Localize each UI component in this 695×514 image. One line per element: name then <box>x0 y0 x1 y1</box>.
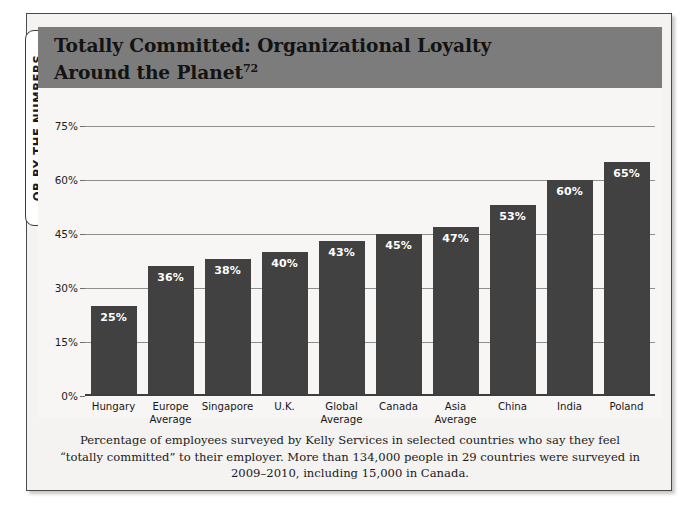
bar[interactable]: 40% <box>262 252 308 396</box>
title-band: Totally Committed: Organizational Loyalt… <box>38 27 662 88</box>
x-axis-category-label: Canada <box>370 400 427 426</box>
bar-value-label: 25% <box>100 311 126 324</box>
bar-value-label: 38% <box>214 264 240 277</box>
page-background: OB BY THE NUMBERS Totally Committed: Org… <box>0 0 695 514</box>
bar-slot: 38% <box>199 126 256 396</box>
x-axis-category-label: Singapore <box>199 400 256 426</box>
chart-area: 0%15%30%45%60%75% 25%36%38%40%43%45%47%5… <box>38 88 662 418</box>
bar-slot: 45% <box>370 126 427 396</box>
y-axis-tick-label: 15% <box>55 336 78 348</box>
plot-region: 0%15%30%45%60%75% 25%36%38%40%43%45%47%5… <box>85 126 655 396</box>
bar-slot: 65% <box>598 126 655 396</box>
bar-value-label: 36% <box>157 271 183 284</box>
bar-value-label: 65% <box>613 167 639 180</box>
bar-value-label: 43% <box>328 246 354 259</box>
bar[interactable]: 60% <box>547 180 593 396</box>
x-axis-category-label: AsiaAverage <box>427 400 484 426</box>
bar-value-label: 47% <box>442 232 468 245</box>
title-line-1: Totally Committed: Organizational Loyalt… <box>54 35 491 56</box>
bar-value-label: 40% <box>271 257 297 270</box>
bar-series: 25%36%38%40%43%45%47%53%60%65% <box>85 126 655 396</box>
y-axis-tick-label: 60% <box>55 174 78 186</box>
bar[interactable]: 47% <box>433 227 479 396</box>
bar[interactable]: 43% <box>319 241 365 396</box>
bar[interactable]: 38% <box>205 259 251 396</box>
bar-slot: 47% <box>427 126 484 396</box>
title-footnote-marker: 72 <box>243 62 258 75</box>
y-axis-tick-label: 30% <box>55 282 78 294</box>
y-axis-tick-mark <box>80 396 85 397</box>
bar-slot: 53% <box>484 126 541 396</box>
caption-line-1: Percentage of employees surveyed by Kell… <box>80 433 620 447</box>
x-axis-category-label: China <box>484 400 541 426</box>
bar-slot: 60% <box>541 126 598 396</box>
figure-caption: Percentage of employees surveyed by Kell… <box>57 432 643 482</box>
x-axis-category-label: Hungary <box>85 400 142 426</box>
bar[interactable]: 25% <box>91 306 137 396</box>
bar-value-label: 45% <box>385 239 411 252</box>
x-axis-category-label: U.K. <box>256 400 313 426</box>
x-axis-baseline <box>85 394 655 396</box>
bar[interactable]: 65% <box>604 162 650 396</box>
bar-slot: 36% <box>142 126 199 396</box>
x-axis-category-labels: HungaryEuropeAverageSingaporeU.K.GlobalA… <box>85 400 655 426</box>
bar[interactable]: 36% <box>148 266 194 396</box>
figure-panel: OB BY THE NUMBERS Totally Committed: Org… <box>26 13 672 491</box>
x-axis-category-label: Poland <box>598 400 655 426</box>
x-axis-category-label: India <box>541 400 598 426</box>
bar-slot: 40% <box>256 126 313 396</box>
x-axis-category-label: GlobalAverage <box>313 400 370 426</box>
y-axis-tick-label: 0% <box>61 390 78 402</box>
x-axis-category-label: EuropeAverage <box>142 400 199 426</box>
caption-line-2: “totally committed” to their employer. M… <box>60 450 625 464</box>
bar-slot: 43% <box>313 126 370 396</box>
bar-slot: 25% <box>85 126 142 396</box>
bar-value-label: 53% <box>499 210 525 223</box>
y-axis-tick-label: 45% <box>55 228 78 240</box>
title-line-2: Around the Planet <box>54 62 243 83</box>
y-axis-tick-label: 75% <box>55 120 78 132</box>
bar[interactable]: 45% <box>376 234 422 396</box>
bar[interactable]: 53% <box>490 205 536 396</box>
bar-value-label: 60% <box>556 185 582 198</box>
page-title: Totally Committed: Organizational Loyalt… <box>54 34 614 84</box>
